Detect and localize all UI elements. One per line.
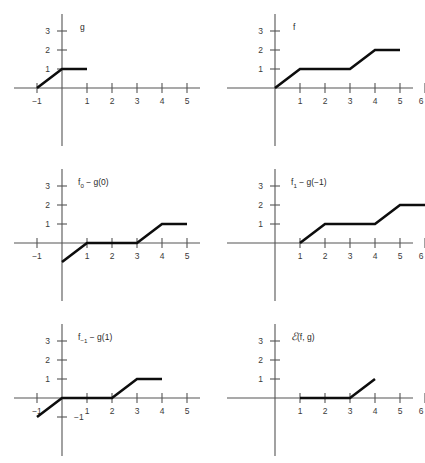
panel-title: f	[293, 22, 296, 32]
x-tick-label: 1	[85, 251, 90, 261]
axes	[227, 14, 413, 146]
y-tick-label: 3	[45, 336, 50, 346]
chart-panel-f1-gm1: 1 2 3 4 5 6 1 2 3 f1 − g(−1)	[213, 155, 425, 309]
axes	[14, 169, 200, 301]
x-tick-label: 4	[160, 406, 165, 416]
y-tick-label-negative: −1	[74, 412, 84, 422]
panel-title-tail: − g(1)	[87, 332, 112, 342]
x-tick-label: 5	[398, 96, 403, 106]
panel-title-tail: − g(0)	[84, 177, 109, 187]
x-tick-labels: −1 1 2 3 4 5	[32, 251, 189, 261]
panel-title: f0 − g(0)	[78, 177, 109, 189]
chart-panel-f: 1 2 3 4 5 6 1 2 3 f	[213, 0, 425, 154]
x-tick-label: 4	[373, 96, 378, 106]
x-tick-label: 2	[110, 251, 115, 261]
figure-container: −1 1 2 3 4 5 1 2 3 g	[0, 0, 425, 463]
panel-title: g	[80, 22, 85, 32]
axes	[14, 14, 200, 146]
panel-title-tail: − g(−1)	[297, 177, 327, 187]
x-tick-label: 1	[298, 96, 303, 106]
y-tick-labels: 1 2 3	[258, 336, 263, 384]
x-tick-labels: −1 1 2 3 4 5	[32, 96, 189, 106]
x-tick-label: 2	[323, 406, 328, 416]
y-tick-label: 1	[45, 64, 50, 74]
x-tick-label: 6	[419, 406, 424, 416]
data-curve	[300, 379, 375, 398]
y-tick-label: 2	[45, 355, 50, 365]
axes	[14, 324, 200, 456]
y-tick-label: 3	[258, 336, 263, 346]
x-tick-label: −1	[32, 96, 42, 106]
x-tick-label: 4	[373, 406, 378, 416]
y-tick-label: 3	[258, 181, 263, 191]
chart-svg-fm1-g1: −1 1 2 3 4 5 −1 1 2 3 f−1 − g(1)	[0, 310, 212, 463]
y-tick-label: 2	[258, 200, 263, 210]
chart-svg-g: −1 1 2 3 4 5 1 2 3 g	[0, 0, 212, 154]
x-tick-label: 2	[110, 96, 115, 106]
data-curve	[300, 205, 425, 243]
x-tick-labels: −1 1 2 3 4 5	[32, 406, 189, 416]
chart-panel-fm1-g1: −1 1 2 3 4 5 −1 1 2 3 f−1 − g(1)	[0, 310, 212, 463]
y-tick-labels: 1 2 3	[45, 26, 50, 74]
panel-title-tail: (f, g)	[297, 332, 315, 342]
x-tick-label: 1	[85, 96, 90, 106]
x-tick-label: 6	[419, 96, 424, 106]
chart-svg-f0-g0: −1 1 2 3 4 5 1 2 3 f0 − g(0)	[0, 155, 212, 309]
x-tick-labels: 1 2 3 4 5 6	[298, 96, 424, 106]
y-tick-label: 1	[258, 374, 263, 384]
y-tick-label: 1	[45, 219, 50, 229]
y-tick-label: 1	[45, 374, 50, 384]
x-tick-label: 1	[298, 406, 303, 416]
y-tick-labels: 1 2 3	[258, 26, 263, 74]
y-tick-label: 2	[45, 45, 50, 55]
chart-panel-error: 1 2 3 4 5 6 1 2 3 ℰ(f, g)	[213, 310, 425, 463]
axes	[227, 169, 413, 301]
panel-title: f−1 − g(1)	[78, 332, 112, 344]
x-tick-label: 3	[348, 406, 353, 416]
axes	[227, 324, 413, 456]
panel-title: f1 − g(−1)	[291, 177, 327, 189]
x-tick-label: 1	[298, 251, 303, 261]
x-tick-label: −1	[32, 251, 42, 261]
y-tick-labels: 1 2 3	[258, 181, 263, 229]
y-tick-label: 2	[258, 45, 263, 55]
x-tick-labels: 1 2 3 4 5 6	[298, 251, 424, 261]
x-tick-label: 2	[110, 406, 115, 416]
y-tick-label: 3	[45, 181, 50, 191]
x-tick-label: 1	[85, 406, 90, 416]
x-tick-label: 4	[160, 251, 165, 261]
x-tick-label: 3	[135, 406, 140, 416]
chart-svg-f: 1 2 3 4 5 6 1 2 3 f	[213, 0, 425, 154]
data-curve	[275, 50, 400, 88]
y-tick-label: 1	[258, 219, 263, 229]
x-tick-label: 3	[135, 251, 140, 261]
y-tick-label: 2	[45, 200, 50, 210]
y-tick-label: 1	[258, 64, 263, 74]
x-tick-label: 4	[373, 251, 378, 261]
y-tick-label: 3	[45, 26, 50, 36]
x-tick-label: 5	[185, 406, 190, 416]
panel-title: ℰ(f, g)	[291, 331, 315, 342]
y-tick-label: 3	[258, 26, 263, 36]
x-tick-label: 5	[398, 406, 403, 416]
x-tick-labels: 1 2 3 4 5 6	[298, 406, 424, 416]
x-tick-label: 5	[398, 251, 403, 261]
x-tick-label: 5	[185, 251, 190, 261]
y-tick-label: 2	[258, 355, 263, 365]
y-tick-labels: 1 2 3	[45, 181, 50, 229]
x-tick-label: 5	[185, 96, 190, 106]
x-tick-label: 3	[348, 251, 353, 261]
x-tick-label: 2	[323, 96, 328, 106]
chart-svg-error: 1 2 3 4 5 6 1 2 3 ℰ(f, g)	[213, 310, 425, 463]
x-tick-label: 3	[135, 96, 140, 106]
x-tick-label: 6	[419, 251, 424, 261]
x-tick-label: 3	[348, 96, 353, 106]
chart-panel-f0-g0: −1 1 2 3 4 5 1 2 3 f0 − g(0)	[0, 155, 212, 309]
chart-panel-g: −1 1 2 3 4 5 1 2 3 g	[0, 0, 212, 154]
x-tick-label: 2	[323, 251, 328, 261]
chart-svg-f1-gm1: 1 2 3 4 5 6 1 2 3 f1 − g(−1)	[213, 155, 425, 309]
x-tick-label: 4	[160, 96, 165, 106]
